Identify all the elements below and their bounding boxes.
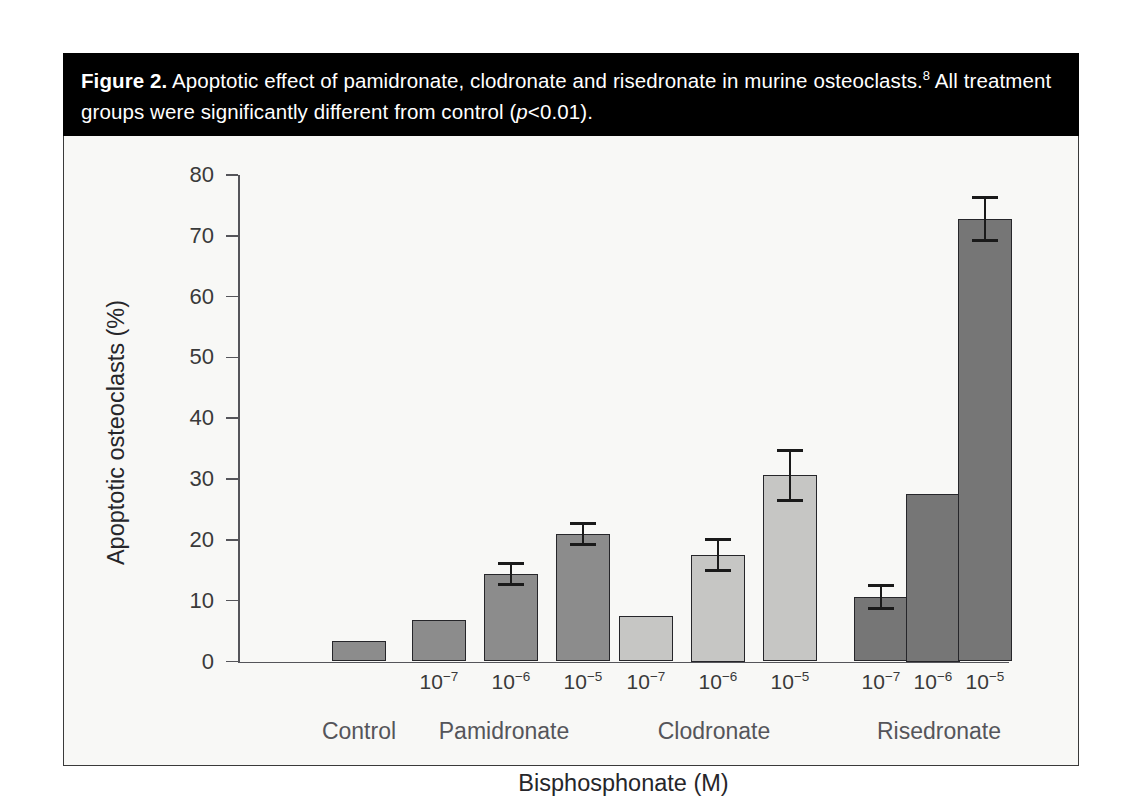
figure-caption-pvalue-symbol: p <box>516 100 528 123</box>
bar <box>763 475 817 661</box>
y-axis-tick <box>226 357 238 359</box>
bar <box>412 620 466 662</box>
error-bar <box>958 196 1012 242</box>
x-axis-line <box>238 662 1009 664</box>
y-axis-title: Apoptotic osteoclasts (%) <box>103 223 130 643</box>
figure-caption-text: Figure 2. Apoptotic effect of pamidronat… <box>81 65 1061 127</box>
error-bar <box>484 562 538 586</box>
y-axis-tick-label: 50 <box>154 344 214 370</box>
y-axis-tick-label: 20 <box>154 527 214 553</box>
y-axis-tick <box>226 539 238 541</box>
x-axis-tick-label: 10−5 <box>940 670 1030 694</box>
bar <box>556 534 610 662</box>
error-bar-cap-bottom <box>498 583 524 586</box>
y-axis-tick <box>226 478 238 480</box>
figure-number-label: Figure 2. <box>81 69 167 92</box>
y-axis-tick-label: 60 <box>154 284 214 310</box>
x-axis-title: Bisphosphonate (M) <box>238 770 1009 797</box>
error-bar-cap-top <box>498 562 524 565</box>
y-axis-tick-label: 30 <box>154 466 214 492</box>
figure-caption-part-3: <0.01). <box>528 100 593 123</box>
error-bar-cap-top <box>868 584 894 587</box>
error-bar <box>854 584 908 610</box>
x-axis-group-label: Risedronate <box>829 718 1049 745</box>
bar <box>484 574 538 662</box>
y-axis-tick <box>226 174 238 176</box>
error-bar-cap-top <box>777 449 803 452</box>
y-axis-tick-label: 10 <box>154 588 214 614</box>
error-bar-stem <box>789 449 792 503</box>
chart-panel: 01020304050607080 Apoptotic osteoclasts … <box>63 136 1079 766</box>
error-bar-cap-top <box>705 538 731 541</box>
y-axis-tick <box>226 296 238 298</box>
y-axis-tick-label: 40 <box>154 405 214 431</box>
bar <box>958 219 1012 661</box>
y-axis-tick <box>226 417 238 419</box>
error-bar <box>763 449 817 503</box>
bar <box>332 641 386 661</box>
bar <box>906 494 960 661</box>
figure-container: Figure 2. Apoptotic effect of pamidronat… <box>63 53 1079 766</box>
y-axis-tick-label: 70 <box>154 223 214 249</box>
error-bar-cap-bottom <box>705 569 731 572</box>
figure-caption-bar: Figure 2. Apoptotic effect of pamidronat… <box>63 53 1079 136</box>
x-axis-group-label: Clodronate <box>604 718 824 745</box>
error-bar-cap-top <box>972 196 998 199</box>
x-axis-group-label: Pamidronate <box>394 718 614 745</box>
error-bar-cap-bottom <box>972 239 998 242</box>
error-bar-stem <box>717 538 720 572</box>
error-bar <box>556 522 610 546</box>
error-bar-cap-top <box>570 522 596 525</box>
plot-area: 01020304050607080 Apoptotic osteoclasts … <box>64 136 1080 766</box>
bar <box>619 616 673 661</box>
error-bar-stem <box>984 196 987 242</box>
y-axis-tick-label: 80 <box>154 162 214 188</box>
error-bar <box>691 538 745 572</box>
figure-caption-part-1: Apoptotic effect of pamidronate, clodron… <box>167 69 922 92</box>
y-axis-line <box>238 175 240 663</box>
error-bar-cap-bottom <box>570 543 596 546</box>
error-bar-cap-bottom <box>868 607 894 610</box>
y-axis-tick <box>226 235 238 237</box>
x-axis-tick-label: 10−5 <box>745 670 835 694</box>
error-bar-cap-bottom <box>777 499 803 502</box>
y-axis-tick <box>226 661 238 663</box>
y-axis-tick <box>226 600 238 602</box>
y-axis-tick-label: 0 <box>154 649 214 675</box>
